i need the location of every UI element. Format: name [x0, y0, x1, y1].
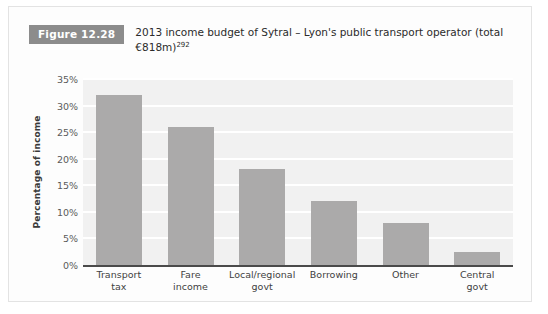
- x-axis-tick-label: Transporttax: [83, 269, 155, 293]
- x-axis-tick-label: Fareincome: [155, 269, 227, 293]
- x-axis-line: [83, 265, 513, 267]
- y-axis-tick-label: 20%: [57, 153, 78, 164]
- y-axis-tick-label: 0%: [63, 260, 78, 271]
- bar[interactable]: [383, 223, 429, 266]
- caption-footnote-reference: 292: [176, 41, 189, 49]
- y-axis-title: Percentage of income: [29, 79, 45, 265]
- y-axis-tick-label: 35%: [57, 74, 78, 85]
- figure-number-badge: Figure 12.28: [29, 25, 124, 44]
- bar[interactable]: [454, 252, 500, 265]
- y-axis-title-text: Percentage of income: [32, 116, 42, 229]
- x-axis-tick-label: Other: [370, 269, 442, 293]
- bar-slot: [441, 79, 513, 265]
- bar-slot: [370, 79, 442, 265]
- figure-caption: Figure 12.28 2013 income budget of Sytra…: [29, 25, 513, 55]
- x-axis-tick-label: Centralgovt: [441, 269, 513, 293]
- bar[interactable]: [96, 95, 142, 265]
- x-axis-tick-label: Local/regionalgovt: [226, 269, 298, 293]
- y-axis-tick-label: 5%: [63, 233, 78, 244]
- figure-panel: Figure 12.28 2013 income budget of Sytra…: [8, 6, 532, 302]
- y-axis-tick-label: 30%: [57, 100, 78, 111]
- bar-slot: [298, 79, 370, 265]
- y-axis-tick-label: 25%: [57, 127, 78, 138]
- bar-slot: [155, 79, 227, 265]
- x-axis-tick-labels: TransporttaxFareincomeLocal/regionalgovt…: [83, 269, 513, 293]
- plot-area: [83, 79, 513, 265]
- bar-slot: [83, 79, 155, 265]
- y-axis-tick-label: 15%: [57, 180, 78, 191]
- bar[interactable]: [239, 169, 285, 265]
- y-axis-tick-labels: 35%30%25%20%15%10%5%0%: [45, 79, 83, 265]
- bar[interactable]: [168, 127, 214, 265]
- caption-main-text: 2013 income budget of Sytral – Lyon's pu…: [135, 26, 503, 53]
- bar[interactable]: [311, 201, 357, 265]
- y-axis-tick-label: 10%: [57, 206, 78, 217]
- figure-caption-text: 2013 income budget of Sytral – Lyon's pu…: [135, 25, 513, 55]
- bar-chart: Percentage of income 35%30%25%20%15%10%5…: [29, 79, 513, 291]
- x-axis-tick-label: Borrowing: [298, 269, 370, 293]
- bar-series: [83, 79, 513, 265]
- bar-slot: [226, 79, 298, 265]
